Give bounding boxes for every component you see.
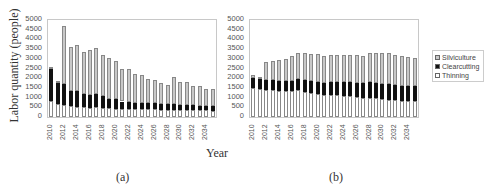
- clearcutting-segment: [355, 83, 359, 97]
- bar-2012: [264, 20, 268, 117]
- silviculture-segment: [342, 55, 346, 83]
- bar-2014: [277, 20, 281, 117]
- clearcutting-swatch-icon: [435, 64, 440, 69]
- y-tick-label: 5000: [222, 15, 244, 23]
- legend-label: Thinning: [442, 72, 469, 79]
- thinning-segment: [258, 89, 262, 117]
- y-tick-label: 500: [222, 102, 244, 110]
- plot-area: [249, 19, 419, 118]
- silviculture-segment: [296, 53, 300, 79]
- thinning-segment: [296, 90, 300, 117]
- x-tick-label: 2016: [287, 124, 294, 140]
- y-tick-label: 1500: [222, 83, 244, 91]
- silviculture-segment: [284, 59, 288, 81]
- bar-2022: [329, 20, 333, 117]
- bar-2030: [380, 20, 384, 117]
- clearcutting-segment: [290, 81, 294, 92]
- silviculture-segment: [290, 56, 294, 81]
- clearcutting-segment: [284, 81, 288, 92]
- y-tick-label: 4500: [222, 25, 244, 33]
- bar-2026: [355, 20, 359, 117]
- clearcutting-segment: [264, 80, 268, 90]
- legend-label: Silviculture: [442, 54, 476, 61]
- clearcutting-segment: [361, 83, 365, 98]
- thinning-segment: [348, 96, 352, 117]
- x-tick-label: 2030: [377, 124, 384, 140]
- silviculture-segment: [361, 56, 365, 83]
- clearcutting-segment: [335, 82, 339, 95]
- thinning-segment: [361, 98, 365, 117]
- bar-2016: [290, 20, 294, 117]
- caption-b: (b): [329, 170, 343, 185]
- thinning-segment: [355, 97, 359, 117]
- clearcutting-segment: [406, 86, 410, 101]
- silviculture-segment: [316, 54, 320, 82]
- silviculture-segment: [329, 55, 333, 82]
- y-tick-label: 2000: [222, 73, 244, 81]
- thinning-segment: [284, 91, 288, 117]
- thinning-segment: [277, 91, 281, 117]
- clearcutting-segment: [400, 86, 404, 101]
- bar-2035: [413, 20, 417, 117]
- clearcutting-segment: [387, 84, 391, 100]
- thinning-segment: [413, 101, 417, 117]
- thinning-segment: [251, 88, 255, 117]
- bar-2023: [335, 20, 339, 117]
- clearcutting-segment: [258, 79, 262, 89]
- x-tick-label: 2026: [352, 124, 359, 140]
- y-tick-label: 1000: [222, 93, 244, 101]
- x-tick-label: 2010: [248, 124, 255, 140]
- thinning-segment: [271, 90, 275, 117]
- y-tick-label: 2500: [222, 64, 244, 72]
- silviculture-segment: [368, 53, 372, 82]
- thinning-segment: [380, 99, 384, 117]
- caption-a: (a): [116, 170, 129, 185]
- chart-b: 0500100015002000250030003500400045005000…: [0, 0, 490, 140]
- bar-2029: [374, 20, 378, 117]
- legend: Silviculture Clearcutting Thinning: [432, 50, 484, 82]
- x-tick-label: 2032: [390, 124, 397, 140]
- thinning-segment: [342, 96, 346, 117]
- silviculture-segment: [374, 53, 378, 83]
- clearcutting-segment: [303, 80, 307, 92]
- silviculture-segment: [393, 55, 397, 85]
- thinning-segment: [322, 95, 326, 117]
- clearcutting-segment: [348, 82, 352, 96]
- silviculture-segment: [322, 56, 326, 83]
- clearcutting-segment: [296, 79, 300, 90]
- silviculture-segment: [348, 55, 352, 83]
- bar-2011: [258, 20, 262, 117]
- thinning-segment: [303, 92, 307, 117]
- bar-2020: [316, 20, 320, 117]
- silviculture-segment: [413, 58, 417, 86]
- x-tick-label: 2012: [261, 124, 268, 140]
- y-tick-label: 3500: [222, 44, 244, 52]
- y-tick-label: 3000: [222, 54, 244, 62]
- silviculture-segment: [335, 55, 339, 82]
- thinning-segment: [290, 91, 294, 117]
- clearcutting-segment: [393, 85, 397, 100]
- legend-item-thinning: Thinning: [435, 71, 481, 80]
- legend-label: Clearcutting: [442, 63, 479, 70]
- bar-2028: [368, 20, 372, 117]
- thinning-swatch-icon: [435, 73, 440, 78]
- thinning-segment: [329, 95, 333, 117]
- thinning-segment: [316, 94, 320, 117]
- bar-2018: [303, 20, 307, 117]
- thinning-segment: [309, 93, 313, 117]
- clearcutting-segment: [316, 82, 320, 94]
- clearcutting-segment: [368, 82, 372, 97]
- thinning-segment: [387, 100, 391, 117]
- thinning-segment: [406, 101, 410, 117]
- silviculture-segment: [258, 77, 262, 79]
- clearcutting-segment: [374, 83, 378, 98]
- bar-2034: [406, 20, 410, 117]
- x-tick-label: 2028: [365, 124, 372, 140]
- bar-2017: [296, 20, 300, 117]
- silviculture-segment: [355, 55, 359, 83]
- silviculture-segment: [303, 53, 307, 80]
- x-tick-label: 2034: [403, 124, 410, 140]
- clearcutting-segment: [380, 84, 384, 99]
- thinning-segment: [264, 90, 268, 117]
- silviculture-swatch-icon: [435, 55, 440, 60]
